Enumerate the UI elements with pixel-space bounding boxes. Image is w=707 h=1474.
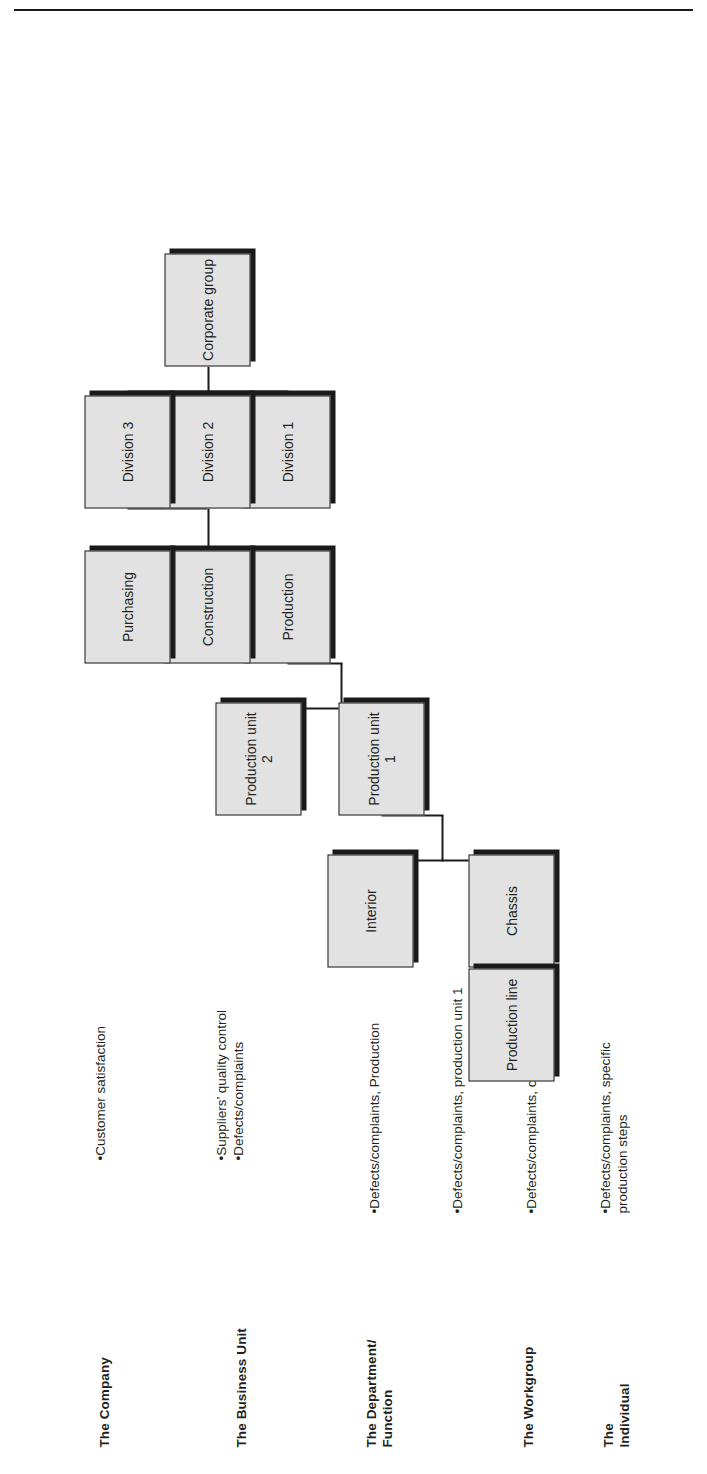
node-face: Division 2: [164, 395, 250, 508]
node-production-unit-1[interactable]: Production unit 1: [338, 702, 424, 815]
node-production[interactable]: Production: [244, 550, 330, 663]
node-chassis[interactable]: Chassis: [468, 854, 554, 967]
annotation-individual: •Defects/complaints, specific production…: [597, 1042, 631, 1213]
level-label-department-function: The Department/ Function: [363, 1339, 395, 1447]
node-label: Construction: [199, 563, 215, 650]
node-label: Division 1: [279, 417, 295, 486]
node-division-2[interactable]: Division 2: [164, 395, 250, 508]
node-division-1[interactable]: Division 1: [244, 395, 330, 508]
connector-corporate-to-bus: [207, 366, 209, 392]
node-construction[interactable]: Construction: [164, 550, 250, 663]
level-label-workgroup: The Workgroup: [520, 1346, 536, 1447]
annotation-business-unit-line-1: •Suppliers’ quality control: [213, 1009, 230, 1160]
connector-unit1-to-workgroup-bus: [441, 815, 443, 861]
node-face: Corporate group: [164, 253, 250, 366]
node-corporate-group[interactable]: Corporate group: [164, 253, 250, 366]
node-face: Chassis: [468, 854, 554, 967]
node-label: Production unit 1: [365, 703, 397, 814]
node-label: Production unit 2: [242, 703, 274, 814]
node-production-unit-2[interactable]: Production unit 2: [215, 702, 301, 815]
node-purchasing[interactable]: Purchasing: [84, 550, 170, 663]
level-label-individual: The Individual: [600, 1383, 632, 1447]
level-label-company: The Company: [96, 1357, 112, 1447]
node-label: Production line: [503, 974, 519, 1075]
annotation-production-unit: •Defects/complaints, production unit 1: [449, 987, 466, 1213]
annotation-individual-line-2: production steps: [614, 1042, 631, 1213]
node-label: Interior: [362, 885, 378, 937]
level-label-business-unit: The Business Unit: [233, 1328, 249, 1447]
node-face: Production: [244, 550, 330, 663]
node-face: Production unit 2: [215, 702, 301, 815]
node-division-3[interactable]: Division 3: [84, 395, 170, 508]
node-label: Division 3: [119, 417, 135, 486]
annotation-business-unit-line-2: •Defects/complaints: [230, 1009, 247, 1160]
node-face: Division 1: [244, 395, 330, 508]
node-face: Interior: [327, 854, 413, 967]
node-face: Purchasing: [84, 550, 170, 663]
diagram-canvas: The Company The Business Unit The Depart…: [0, 0, 707, 1474]
node-interior[interactable]: Interior: [327, 854, 413, 967]
node-label: Chassis: [503, 882, 519, 940]
annotation-business-unit: •Suppliers’ quality control •Defects/com…: [213, 1009, 247, 1160]
annotation-individual-line-1: •Defects/complaints, specific: [597, 1042, 614, 1213]
node-face: Production unit 1: [338, 702, 424, 815]
node-face: Division 3: [84, 395, 170, 508]
node-production-line[interactable]: Production line: [468, 968, 554, 1081]
node-label: Production: [279, 569, 295, 644]
node-face: Construction: [164, 550, 250, 663]
annotation-department: •Defects/complaints, Production: [366, 1022, 383, 1213]
node-label: Division 2: [199, 417, 215, 486]
node-face: Production line: [468, 968, 554, 1081]
annotation-company: •Customer satisfaction: [92, 1025, 109, 1160]
node-label: Corporate group: [199, 255, 215, 365]
node-label: Purchasing: [119, 567, 135, 645]
